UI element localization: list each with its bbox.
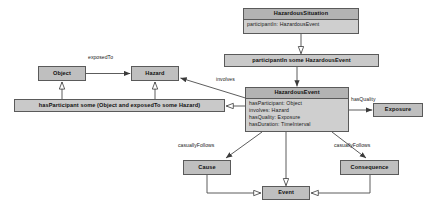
node-consequence[interactable]: Consequence — [340, 160, 399, 175]
node-hazardous-situation[interactable]: HazardousSituation participantIn: Hazard… — [243, 8, 359, 34]
edge-hazardous-event-to-cause — [226, 132, 262, 158]
node-hazardous-event-title: HazardousEvent — [246, 88, 348, 99]
node-exposure[interactable]: Exposure — [373, 103, 423, 117]
edge-label-exposed-to: exposedTo — [88, 54, 113, 60]
node-hazardous-event[interactable]: HazardousEvent hasParticipant: Object in… — [245, 87, 349, 132]
edge-label-casually-follows-right: casuallyFollows — [334, 142, 370, 148]
edge-consequence-to-event — [311, 175, 370, 193]
attribute-line: hasParticipant: Object — [249, 100, 345, 107]
edge-label-has-quality: hasQuality — [351, 96, 376, 102]
ontology-diagram-canvas: HazardousSituation participantIn: Hazard… — [0, 0, 430, 209]
node-object[interactable]: Object — [38, 66, 86, 81]
node-cause[interactable]: Cause — [183, 160, 231, 175]
attribute-line: hasDuration: TimeInterval — [249, 121, 345, 128]
attribute-line: involves: Hazard — [249, 107, 345, 114]
edge-label-involves: involves — [216, 76, 235, 82]
node-has-participant-restriction[interactable]: hasParticipant some (Object and exposedT… — [14, 99, 225, 112]
attribute-line: participantIn: HazardousEvent — [247, 21, 355, 28]
node-hazardous-situation-title: HazardousSituation — [244, 9, 358, 20]
node-participant-in-restriction[interactable]: participantIn some HazardousEvent — [224, 54, 379, 67]
attribute-line: hasQuality: Exposure — [249, 114, 345, 121]
node-event[interactable]: Event — [262, 186, 310, 200]
node-hazardous-event-attributes: hasParticipant: Object involves: Hazard … — [246, 99, 348, 129]
edge-cause-to-event — [207, 175, 261, 193]
node-hazard[interactable]: Hazard — [131, 66, 179, 81]
edge-label-casually-follows-left: casuallyFollows — [178, 142, 214, 148]
node-hazardous-situation-attributes: participantIn: HazardousEvent — [244, 20, 358, 30]
